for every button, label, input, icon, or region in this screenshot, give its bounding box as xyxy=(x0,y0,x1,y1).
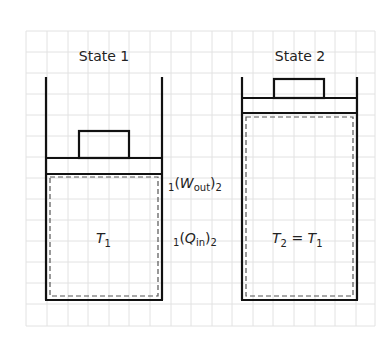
state-1-cylinder xyxy=(45,77,163,300)
piston-cylinder-diagram: State 1 T1 1(Wout)2 1(Qin)2 State 2 xyxy=(0,0,389,341)
state-1-title: State 1 xyxy=(79,48,129,64)
energy-transfer-labels: 1(Wout)2 1(Qin)2 xyxy=(168,175,222,248)
state-1-piston xyxy=(46,158,162,174)
state-2-piston xyxy=(242,98,357,113)
state-2-weight xyxy=(274,79,324,98)
state-1-weight xyxy=(79,131,129,158)
heat-in-label: 1(Qin)2 xyxy=(173,230,217,248)
state-2-system-boundary xyxy=(246,117,353,296)
graph-paper-grid xyxy=(26,31,375,326)
state-2-title: State 2 xyxy=(275,48,325,64)
state-2-cylinder xyxy=(241,77,358,300)
